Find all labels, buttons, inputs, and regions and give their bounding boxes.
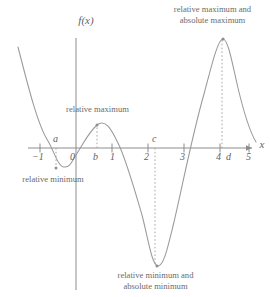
point-a	[55, 167, 58, 170]
critical-label-b: b	[93, 151, 98, 162]
point-c	[156, 265, 159, 268]
annotation-absolute-minimum-line1: relative minimum and	[78, 270, 233, 281]
annotation-relative-minimum: relative minimum	[0, 174, 106, 185]
x-tick-label-4: 4	[216, 151, 221, 162]
graph-canvas	[0, 0, 270, 297]
x-tick-label-3: 3	[180, 151, 185, 162]
x-tick-label-0: 0	[70, 151, 75, 162]
x-tick-label-1: 1	[110, 151, 115, 162]
annotation-relative-maximum: relative maximum	[40, 104, 155, 115]
axis-label-fx: f(x)	[66, 15, 106, 26]
dotted-guides	[56, 38, 222, 266]
point-d	[222, 38, 225, 41]
x-tick-label-5: 5	[246, 151, 251, 162]
critical-point-markers	[55, 38, 225, 268]
critical-label-c: c	[152, 133, 156, 144]
point-b	[96, 124, 99, 127]
annotation-absolute-maximum-line2: absolute maximum	[155, 15, 270, 26]
annotation-absolute-maximum-line1: relative maximum and	[155, 4, 270, 15]
annotation-absolute-minimum-line2: absolute minimum	[78, 281, 233, 292]
x-tick-label-2: 2	[144, 151, 149, 162]
x-tick-label--1: −1	[32, 151, 44, 162]
critical-label-a: a	[53, 133, 58, 144]
function-graph-figure: f(x) x −1 0 1 2 3 4 5 a b c d relative m…	[0, 0, 270, 297]
axis-label-x: x	[256, 139, 268, 150]
critical-label-d: d	[226, 151, 231, 162]
